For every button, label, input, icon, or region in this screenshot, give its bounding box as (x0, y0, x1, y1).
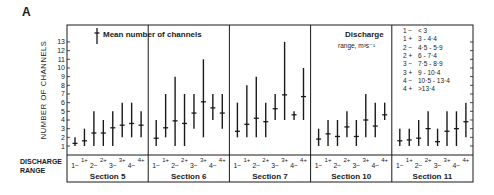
section-group (397, 103, 468, 146)
category-label: 1+ (81, 157, 88, 163)
category-label: 4− (371, 162, 379, 169)
category-label: 1− (396, 162, 404, 169)
legend-range-code: 3 − (403, 60, 412, 67)
legend-range-value: >13·4 (418, 85, 435, 92)
category-label: 4+ (138, 157, 145, 163)
mean-legend-label: Mean number of channels (103, 30, 202, 39)
category-label: 1− (71, 162, 79, 169)
category-label: 2− (252, 162, 260, 169)
category-label: 4+ (219, 157, 226, 163)
category-label: 4+ (381, 157, 388, 163)
category-label: 4+ (462, 157, 469, 163)
category-label: 2+ (262, 157, 269, 163)
category-label: 2+ (425, 157, 432, 163)
category-label: 3+ (119, 157, 126, 163)
y-axis-label: NUMBER OF CHANNELS (39, 41, 48, 140)
discharge-category-labels: 1−1+2−2+3−3+4−4+1−1+2−2+3−3+4−4+1−1+2−2+… (71, 157, 470, 169)
category-label: 1− (234, 162, 242, 169)
channels-errorbar-chart: A NUMBER OF CHANNELS 12345678910111213 M… (0, 0, 494, 195)
category-label: 1− (152, 162, 160, 169)
category-label: 3+ (281, 157, 288, 163)
category-label: 2+ (181, 157, 188, 163)
x-axis-label-line2: RANGE (20, 167, 46, 174)
y-tick-label: 8 (61, 82, 65, 89)
category-label: 1− (315, 162, 323, 169)
category-label: 3+ (444, 157, 451, 163)
category-label: 1+ (325, 157, 332, 163)
legend-range-code: 1 + (403, 35, 412, 42)
y-tick-label: 13 (57, 38, 65, 45)
category-label: 2+ (100, 157, 107, 163)
category-label: 3− (434, 162, 442, 169)
section-label: Section 7 (252, 172, 288, 181)
section-group (73, 103, 144, 146)
section-label: Section 6 (171, 172, 207, 181)
legend-range-code: 3 + (403, 69, 412, 76)
legend-range-code: 1 − (403, 27, 412, 34)
section-label: Section 10 (331, 172, 372, 181)
section-group (316, 94, 387, 146)
legend-range-value: 7·5 - 8·9 (418, 60, 443, 67)
y-tick-label: 9 (61, 73, 65, 80)
category-label: 2− (90, 162, 98, 169)
legend-range-code: 4 + (403, 85, 412, 92)
category-label: 4− (128, 162, 136, 169)
category-label: 3+ (362, 157, 369, 163)
section-label: Section 11 (413, 172, 453, 181)
legend-range-value: 4·5 - 5·9 (418, 44, 443, 51)
y-tick-label: 5 (61, 108, 65, 115)
category-label: 4− (290, 162, 298, 169)
section-group (235, 42, 306, 137)
section-label: Section 5 (90, 172, 126, 181)
y-tick-label: 3 (61, 125, 65, 132)
category-label: 1+ (162, 157, 169, 163)
discharge-legend-title: Discharge (345, 30, 384, 39)
discharge-legend-units: range, m³s⁻¹ (338, 42, 376, 50)
section-group (154, 59, 225, 146)
category-label: 3− (271, 162, 279, 169)
y-tick-label: 7 (61, 90, 65, 97)
y-tick-label: 6 (61, 99, 65, 106)
panel-label: A (22, 5, 31, 19)
category-label: 2− (334, 162, 342, 169)
x-axis-label-line1: DISCHARGE (20, 158, 62, 165)
y-tick-label: 4 (61, 116, 65, 123)
category-label: 4− (209, 162, 217, 169)
category-label: 1+ (243, 157, 250, 163)
y-tick-label: 11 (58, 56, 65, 63)
legend-range-code: 2 − (403, 44, 412, 51)
y-tick-label: 2 (61, 134, 65, 141)
category-label: 3− (352, 162, 360, 169)
y-tick-label: 10 (57, 64, 65, 71)
legend-range-value: 3 - 4·4 (418, 35, 437, 42)
section-labels: Section 5Section 6Section 7Section 10Sec… (90, 172, 453, 181)
discharge-legend: Discharge range, m³s⁻¹ 1 −< 31 +3 - 4·42… (338, 27, 450, 92)
category-label: 3+ (200, 157, 207, 163)
y-tick-label: 1 (61, 143, 65, 150)
category-label: 3− (190, 162, 198, 169)
legend-range-value: < 3 (418, 27, 428, 34)
category-label: 2+ (344, 157, 351, 163)
y-axis-ticks: 12345678910111213 (57, 38, 70, 149)
y-tick-label: 12 (57, 47, 65, 54)
legend-range-value: 6 - 7·4 (418, 52, 437, 59)
category-label: 3− (109, 162, 117, 169)
category-label: 2− (171, 162, 179, 169)
category-label: 4+ (300, 157, 307, 163)
category-label: 1+ (406, 157, 413, 163)
legend-range-value: 10·5 - 13·4 (418, 77, 450, 84)
legend-range-code: 2 + (403, 52, 412, 59)
legend-range-value: 9 - 10·4 (418, 69, 441, 76)
legend-range-code: 4 − (403, 77, 412, 84)
category-label: 2− (415, 162, 423, 169)
category-label: 4− (453, 162, 461, 169)
